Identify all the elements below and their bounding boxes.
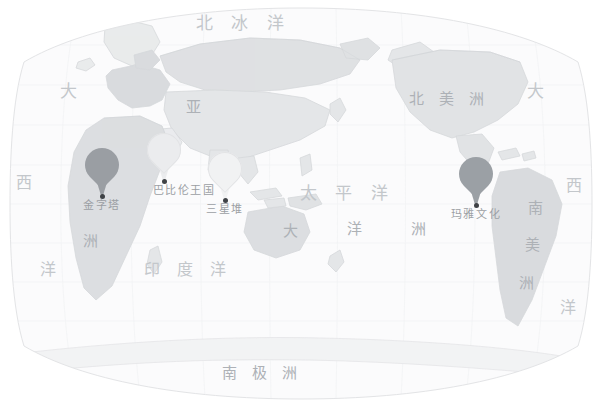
map-label-asia-zhou: 洲 <box>83 234 103 249</box>
pin-sanxingdui-label: 三星堆 <box>206 204 244 215</box>
pin-pyramids-marker-icon[interactable]: 金字塔 <box>80 148 124 200</box>
map-label-south-america-zhou: 洲 <box>519 276 539 291</box>
pin-sanxingdui[interactable]: 三星堆 <box>203 152 247 204</box>
map-label-south-america-nan: 南 <box>528 201 548 216</box>
pin-maya-teardrop <box>452 150 500 198</box>
pin-pyramids[interactable]: 金字塔 <box>80 148 124 200</box>
map-label-atlantic-ocean-east-bottom: 洋 <box>560 300 582 316</box>
map-label-oceania-yang: 洋 <box>347 222 367 237</box>
map-label-atlantic-ocean-west-top: 大 <box>60 83 83 100</box>
pin-maya[interactable]: 玛雅文化 <box>454 157 498 209</box>
map-label-arctic-ocean: 北 冰 洋 <box>196 15 290 32</box>
pin-babylon[interactable]: 巴比伦王国 <box>142 133 186 185</box>
world-map-canvas: 北 冰 洋太 平 洋印 度 洋大西洋大西洋 亚洲北 美 洲南美洲大洋洲南 极 洲… <box>0 0 602 407</box>
map-label-oceania-da: 大 <box>283 224 303 239</box>
map-label-oceania-zhou: 洲 <box>411 222 431 237</box>
map-label-antarctica: 南 极 洲 <box>222 366 302 381</box>
pin-babylon-marker-icon[interactable]: 巴比伦王国 <box>142 133 186 185</box>
map-label-atlantic-ocean-east-top: 大 <box>527 83 550 100</box>
pin-sanxingdui-teardrop <box>201 145 249 193</box>
pin-sanxingdui-marker-icon[interactable]: 三星堆 <box>203 152 247 204</box>
pin-babylon-teardrop <box>140 126 188 174</box>
pin-pyramids-label: 金字塔 <box>83 200 121 211</box>
pin-pyramids-teardrop <box>78 141 126 189</box>
map-label-north-america: 北 美 洲 <box>409 92 489 107</box>
pin-maya-label: 玛雅文化 <box>451 209 501 220</box>
pin-maya-marker-icon[interactable]: 玛雅文化 <box>454 157 498 209</box>
map-label-indian-ocean: 印 度 洋 <box>144 262 233 278</box>
map-label-atlantic-ocean-west-mid: 西 <box>16 175 38 191</box>
map-label-south-america-mei: 美 <box>525 238 545 253</box>
map-label-pacific-ocean: 太 平 洋 <box>300 185 394 202</box>
map-label-atlantic-ocean-east-mid: 西 <box>566 178 588 194</box>
map-label-asia: 亚 <box>186 100 206 115</box>
map-label-atlantic-ocean-west-bottom: 洋 <box>40 262 62 278</box>
